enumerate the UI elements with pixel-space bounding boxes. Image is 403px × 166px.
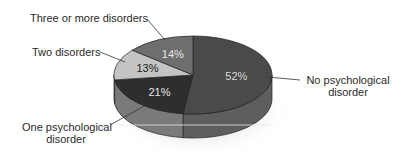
leader-line-three-or-more xyxy=(147,19,165,40)
label-one-psychological-disorder: One psychological disorder xyxy=(22,121,110,145)
slice-value-label: 13% xyxy=(136,62,158,74)
slice-value-label: 52% xyxy=(225,70,247,82)
label-one-line1: One psychological xyxy=(22,121,110,133)
slice-value-label: 14% xyxy=(162,48,184,60)
label-no-line2: disorder xyxy=(303,86,393,98)
pie-slices xyxy=(114,36,272,114)
leader-line-two xyxy=(100,52,125,62)
label-no-line1: No psychological xyxy=(303,74,393,86)
slice-value-label: 21% xyxy=(148,86,170,98)
label-three-or-more-disorders: Three or more disorders xyxy=(30,12,148,24)
leader-line-no xyxy=(268,77,300,80)
label-two-disorders: Two disorders xyxy=(32,46,100,58)
label-one-line2: disorder xyxy=(22,133,110,145)
label-no-psychological-disorder: No psychological disorder xyxy=(303,74,393,98)
